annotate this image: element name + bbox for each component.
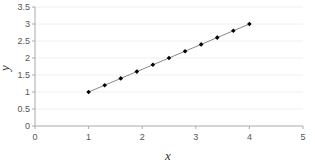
x-tick-label: 0: [32, 132, 37, 142]
y-tick-label: 2: [25, 53, 30, 63]
data-point-marker: [231, 29, 236, 34]
data-point-marker: [215, 35, 220, 40]
data-point-marker: [151, 63, 156, 68]
x-tick-label: 1: [86, 132, 91, 142]
y-axis-title: y: [0, 65, 12, 73]
y-tick-label: 0: [25, 121, 30, 131]
y-axis-ticks: 00.511.522.533.5: [17, 2, 35, 131]
x-tick-label: 2: [140, 132, 145, 142]
y-tick-label: 1.5: [17, 70, 30, 80]
y-tick-label: 2.5: [17, 36, 30, 46]
line-chart: 00.511.522.533.5 012345 x y: [0, 0, 315, 168]
x-tick-label: 5: [300, 132, 305, 142]
data-point-marker: [118, 76, 123, 81]
y-tick-label: 3.5: [17, 2, 30, 12]
axes: [35, 7, 303, 126]
y-tick-label: 1: [25, 87, 30, 97]
y-tick-label: 0.5: [17, 104, 30, 114]
y-tick-label: 3: [25, 19, 30, 29]
x-tick-label: 3: [193, 132, 198, 142]
x-tick-label: 4: [247, 132, 252, 142]
x-axis-title: x: [164, 148, 171, 163]
data-point-marker: [199, 42, 204, 47]
data-point-marker: [102, 83, 107, 88]
data-point-marker: [135, 69, 140, 74]
x-axis-ticks: 012345: [32, 126, 305, 142]
data-point-marker: [183, 49, 188, 54]
data-point-marker: [167, 56, 172, 61]
data-point-marker: [86, 90, 91, 95]
data-point-marker: [247, 22, 252, 27]
